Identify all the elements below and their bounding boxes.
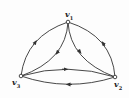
edge-v3-v1: [21, 22, 68, 76]
edge-v2-v1: [68, 22, 115, 77]
graph-diagram: v1 v2 v3: [0, 0, 129, 98]
node-v1: [66, 20, 70, 24]
edge-v1-v3: [21, 22, 68, 76]
arrow-icon: [34, 42, 36, 45]
node-label-v2: v2: [114, 80, 122, 91]
edge-v1-v2: [68, 22, 115, 77]
label-subscript: 3: [17, 83, 20, 89]
edge-v2-v3: [21, 76, 115, 84]
node-label-v1: v1: [65, 10, 73, 21]
label-subscript: 1: [70, 15, 73, 21]
label-subscript: 2: [119, 85, 122, 91]
node-label-v3: v3: [12, 78, 20, 89]
